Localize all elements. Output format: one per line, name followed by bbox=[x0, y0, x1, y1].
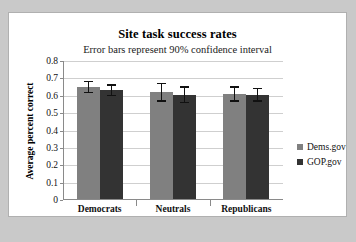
y-axis-tick-mark bbox=[60, 200, 63, 201]
bar-column bbox=[100, 60, 123, 199]
error-bar bbox=[88, 81, 89, 93]
chart-legend: Dems.govGOP.gov bbox=[297, 139, 356, 169]
bar-group bbox=[63, 61, 136, 199]
chart-panel: Site task success rates Error bars repre… bbox=[8, 12, 347, 217]
bar bbox=[173, 95, 196, 199]
chart-screenshot: Site task success rates Error bars repre… bbox=[0, 0, 356, 242]
legend-swatch-icon bbox=[297, 144, 303, 150]
plot-area: 0.80.70.60.50.40.30.20.10 DemocratsNeutr… bbox=[63, 61, 283, 200]
y-axis-tick-label: 0.8 bbox=[46, 56, 58, 66]
bar-column bbox=[246, 60, 269, 199]
bar bbox=[150, 92, 173, 199]
error-bar bbox=[257, 88, 258, 102]
legend-label: GOP.gov bbox=[307, 157, 342, 167]
bar-column bbox=[223, 60, 246, 199]
y-axis-tick-label: 0.5 bbox=[46, 108, 58, 118]
x-axis-category-label: Republicans bbox=[209, 204, 283, 214]
bar-column bbox=[150, 60, 173, 199]
x-axis-category-label: Neutrals bbox=[136, 204, 210, 214]
bar bbox=[246, 95, 269, 199]
legend-item[interactable]: GOP.gov bbox=[297, 154, 356, 169]
legend-item[interactable]: Dems.gov bbox=[297, 139, 356, 154]
bar-group bbox=[210, 61, 283, 199]
error-bar bbox=[184, 86, 185, 103]
bar-column bbox=[77, 60, 100, 199]
bar-group bbox=[136, 61, 209, 199]
y-axis-tick-label: 0.6 bbox=[46, 91, 58, 101]
legend-label: Dems.gov bbox=[307, 142, 346, 152]
error-bar bbox=[234, 86, 235, 102]
error-bar bbox=[161, 83, 162, 102]
bar-column bbox=[173, 60, 196, 199]
y-axis-tick-label: 0.4 bbox=[46, 126, 58, 136]
bar bbox=[223, 94, 246, 199]
y-axis-tick-label: 0 bbox=[53, 195, 58, 205]
y-axis-title: Average percent correct bbox=[23, 61, 37, 200]
legend-swatch-icon bbox=[297, 159, 303, 165]
y-axis-title-label: Average percent correct bbox=[25, 82, 35, 179]
chart-subtitle: Error bars represent 90% confidence inte… bbox=[9, 44, 346, 55]
x-axis-line bbox=[63, 199, 283, 200]
error-bar bbox=[111, 84, 112, 96]
y-axis-tick-label: 0.7 bbox=[46, 73, 58, 83]
x-axis-category-label: Democrats bbox=[63, 204, 137, 214]
y-axis-tick-label: 0.1 bbox=[46, 178, 58, 188]
y-axis-tick-label: 0.2 bbox=[46, 160, 58, 170]
bar bbox=[100, 90, 123, 199]
y-axis-tick-label: 0.3 bbox=[46, 143, 58, 153]
chart-title: Site task success rates bbox=[9, 27, 346, 42]
bar bbox=[77, 87, 100, 199]
